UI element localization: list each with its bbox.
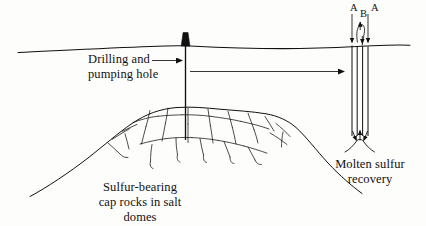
molten-sulfur-recovery-label: Molten sulfur recovery <box>335 157 405 187</box>
caprock-label-line2: cap rocks in salt <box>99 195 182 210</box>
drilling-hole-label-line2: pumping hole <box>88 67 158 82</box>
well-pipe-foot <box>345 131 375 153</box>
drilling-hole-label: Drilling and pumping hole <box>88 52 158 82</box>
molten-sulfur-label-line1: Molten sulfur <box>335 157 405 172</box>
drilling-hole-label-line1: Drilling and <box>88 52 158 67</box>
molten-sulfur-label-line2: recovery <box>335 172 405 187</box>
diagram-artwork <box>0 0 426 226</box>
sulfur-mining-diagram: Drilling and pumping hole Sulfur-bearing… <box>0 0 426 226</box>
pipe-label-a-right: A <box>371 2 379 13</box>
pipe-label-b-middle: B <box>360 8 367 19</box>
caprock-dome-outline <box>30 107 362 196</box>
caprock-label: Sulfur-bearing cap rocks in salt domes <box>99 180 182 224</box>
caprock-fracture-texture <box>108 108 290 169</box>
ground-surface-line <box>18 45 410 53</box>
caprock-label-line1: Sulfur-bearing <box>99 180 182 195</box>
pipe-label-a-left: A <box>350 2 358 13</box>
drilling-rig-icon <box>181 33 190 47</box>
caprock-label-line3: domes <box>99 210 182 225</box>
well-pipe-bundle <box>352 46 368 137</box>
